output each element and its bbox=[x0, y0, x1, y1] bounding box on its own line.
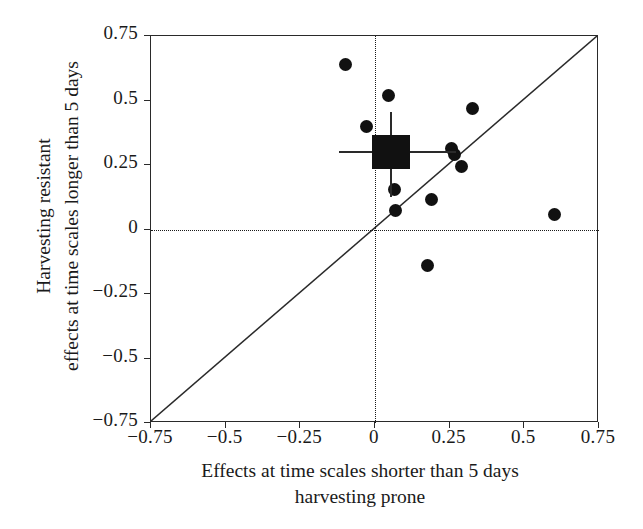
data-point bbox=[455, 160, 468, 173]
y-tick-label: −0.5 bbox=[48, 345, 138, 367]
plot-area bbox=[150, 35, 598, 422]
y-tick-label: 0.5 bbox=[48, 87, 138, 109]
y-tick bbox=[144, 358, 150, 359]
data-point bbox=[466, 102, 479, 115]
y-tick bbox=[144, 293, 150, 294]
y-tick-label: −0.75 bbox=[48, 409, 138, 431]
x-tick-label: 0.75 bbox=[553, 426, 643, 448]
y-tick bbox=[144, 100, 150, 101]
y-tick-label: 0.25 bbox=[48, 151, 138, 173]
data-point bbox=[548, 208, 561, 221]
data-point bbox=[360, 120, 373, 133]
y-tick bbox=[144, 422, 150, 423]
overall-mean-marker bbox=[372, 135, 410, 169]
y-tick bbox=[144, 164, 150, 165]
data-point bbox=[389, 204, 402, 217]
x-axis-title-line2: harvesting prone bbox=[110, 484, 610, 510]
x-axis-title-line1: Effects at time scales shorter than 5 da… bbox=[110, 458, 610, 484]
data-point bbox=[421, 259, 434, 272]
y-tick-label: −0.25 bbox=[48, 280, 138, 302]
scatter-plot-figure: Effects at time scales shorter than 5 da… bbox=[0, 0, 643, 529]
identity-line bbox=[151, 36, 597, 421]
y-tick-label: 0.75 bbox=[48, 22, 138, 44]
y-tick-label: 0 bbox=[48, 216, 138, 238]
data-point bbox=[425, 193, 438, 206]
zero-vertical bbox=[375, 36, 376, 423]
y-tick bbox=[144, 229, 150, 230]
data-point bbox=[339, 58, 352, 71]
y-tick bbox=[144, 35, 150, 36]
x-axis-title: Effects at time scales shorter than 5 da… bbox=[110, 458, 610, 510]
data-point bbox=[382, 89, 395, 102]
